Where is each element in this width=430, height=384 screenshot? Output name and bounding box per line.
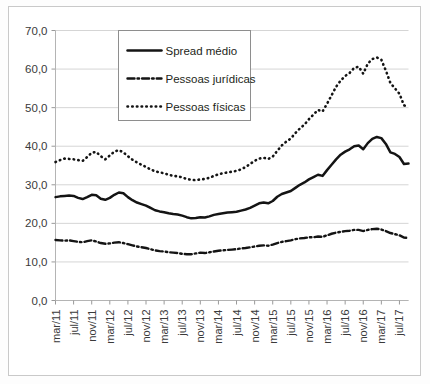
legend-label: Pessoas jurídicas — [166, 73, 256, 85]
x-tick-label: jul/13 — [176, 310, 188, 337]
chart-figure: 0,010,020,030,040,050,060,070,0mar/11jul… — [0, 0, 430, 384]
x-tick-label: jul/16 — [339, 310, 351, 337]
x-tick-label: nov/15 — [303, 310, 315, 343]
x-tick-label: mar/12 — [104, 310, 116, 344]
x-tick-label: jul/11 — [68, 310, 80, 336]
legend-label: Spread médio — [166, 45, 238, 57]
x-tick-label: jul/12 — [122, 310, 134, 337]
series-pessoas-juridicas — [56, 229, 409, 254]
x-tick-label: nov/14 — [249, 310, 261, 343]
y-tick-label: 60,0 — [25, 63, 47, 75]
y-tick-label: 20,0 — [25, 217, 47, 229]
y-tick-label: 40,0 — [25, 140, 47, 152]
x-tick-label: nov/11 — [86, 310, 98, 342]
x-tick-label: mar/13 — [158, 310, 170, 344]
y-tick-label: 70,0 — [25, 25, 47, 37]
x-tick-label: nov/16 — [357, 310, 369, 343]
x-tick-label: jul/17 — [393, 310, 405, 337]
x-tick-label: jul/15 — [285, 310, 297, 337]
legend-label: Pessoas físicas — [166, 101, 246, 113]
chart-legend: Spread médioPessoas jurídicasPessoas fís… — [119, 31, 256, 121]
series-spread-medio — [56, 137, 409, 218]
y-tick-label: 10,0 — [25, 256, 47, 268]
x-tick-label: mar/14 — [212, 310, 224, 344]
line-chart: 0,010,020,030,040,050,060,070,0mar/11jul… — [0, 0, 430, 384]
x-tick-label: nov/13 — [194, 310, 206, 343]
y-tick-label: 0,0 — [32, 295, 48, 307]
x-tick-label: nov/12 — [140, 310, 152, 343]
x-axis-ticks: mar/11jul/11nov/11mar/12jul/12nov/12mar/… — [50, 301, 406, 344]
x-tick-label: mar/15 — [267, 310, 279, 344]
y-tick-label: 50,0 — [25, 102, 47, 114]
x-tick-label: mar/16 — [321, 310, 333, 344]
x-tick-label: mar/11 — [50, 310, 62, 343]
x-tick-label: mar/17 — [375, 310, 387, 344]
y-tick-label: 30,0 — [25, 179, 47, 191]
x-tick-label: jul/14 — [231, 310, 243, 337]
